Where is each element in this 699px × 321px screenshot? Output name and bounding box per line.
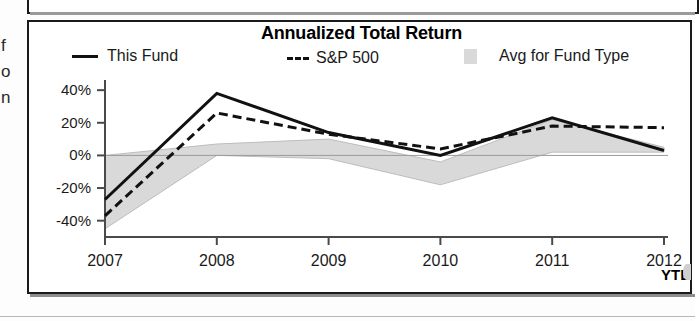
cropped-side-text: f o n — [1, 33, 23, 111]
legend-label-sp500: S&P 500 — [316, 49, 379, 67]
chart-legend: This Fund S&P 500 Avg for Fund Type — [29, 47, 694, 71]
panel-above-shadow — [30, 12, 695, 15]
side-text-fragment-1: f — [1, 33, 23, 59]
x-axis-tick-label: 2011 — [535, 252, 570, 269]
legend-label-avg-fund-type: Avg for Fund Type — [499, 47, 629, 65]
page-edge-artifact — [683, 264, 691, 280]
legend-item-avg-fund-type: Avg for Fund Type — [464, 47, 629, 65]
legend-item-sp500: S&P 500 — [287, 49, 379, 67]
x-axis-tick-label: 2008 — [199, 252, 235, 269]
plot-area: -40%-20%0%20%40%200720082009201020112012 — [29, 74, 694, 289]
legend-label-this-fund: This Fund — [107, 47, 178, 65]
annualized-total-return-chart-panel: Annualized Total Return This Fund S&P 50… — [27, 20, 692, 294]
side-text-fragment-2: o — [1, 59, 23, 85]
y-axis-tick-label: 0% — [69, 146, 91, 163]
y-axis-tick-label: 40% — [61, 81, 91, 98]
y-axis-tick-label: -40% — [56, 212, 91, 229]
x-axis-tick-label: 2010 — [423, 252, 459, 269]
side-text-fragment-3: n — [1, 85, 23, 111]
solid-line-swatch-icon — [72, 55, 98, 58]
bottom-rule — [0, 316, 695, 317]
avg-fund-type-band — [105, 120, 664, 229]
y-axis-tick-label: 20% — [61, 114, 91, 131]
x-axis-tick-label: 2009 — [311, 252, 347, 269]
chart-panel-shadow — [30, 294, 695, 297]
x-axis-tick-label: 2007 — [87, 252, 123, 269]
line-chart-svg: -40%-20%0%20%40%200720082009201020112012 — [29, 74, 694, 289]
chart-title: Annualized Total Return — [29, 23, 694, 44]
dashed-line-swatch-icon — [287, 57, 309, 60]
legend-item-this-fund: This Fund — [72, 47, 178, 65]
y-axis-tick-label: -20% — [56, 179, 91, 196]
gray-area-swatch-icon — [464, 49, 477, 64]
